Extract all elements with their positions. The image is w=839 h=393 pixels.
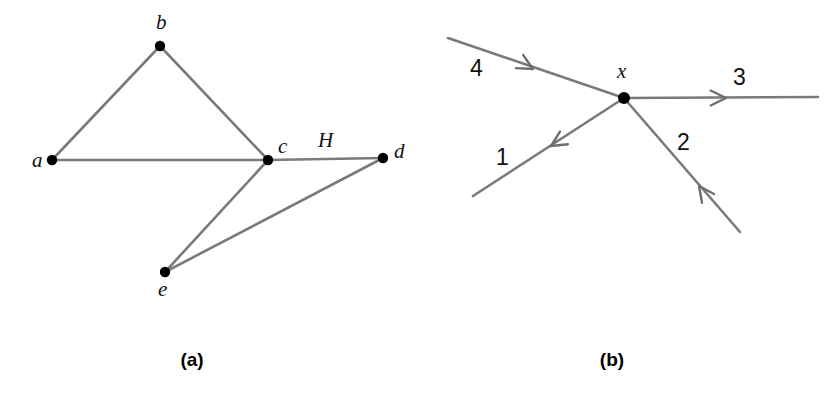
- vertex-dot-c: [263, 155, 273, 165]
- vertex-label-d: d: [394, 139, 405, 163]
- edge-label-H: H: [317, 128, 335, 152]
- edge-number-1: 1: [496, 144, 509, 170]
- panel-caption-a: (a): [180, 349, 203, 370]
- edge-c-e: [165, 160, 268, 272]
- vertex-label-a: a: [32, 148, 43, 172]
- edge-c-d: [268, 158, 383, 160]
- vertex-dot-d: [378, 153, 388, 163]
- panel-caption-b: (b): [600, 349, 624, 370]
- vertex-label-x: x: [616, 59, 627, 83]
- panel-b-edge-labels: 1 2 3 4: [470, 55, 746, 170]
- figure-svg: H a b c d e (a): [0, 0, 839, 393]
- figure-container: H a b c d e (a): [0, 0, 839, 393]
- vertex-dot-a: [47, 155, 57, 165]
- edge-e-d: [165, 158, 383, 272]
- panel-b-edges: [448, 38, 818, 232]
- panel-a-vertex-labels: a b c d e: [32, 10, 405, 301]
- edge-number-4: 4: [470, 55, 483, 81]
- vertex-label-e: e: [158, 277, 167, 301]
- edge-2-line: [624, 98, 740, 232]
- panel-b-group: 1 2 3 4 x (b): [448, 38, 818, 370]
- edge-a-b: [52, 46, 160, 160]
- vertex-label-c: c: [278, 134, 288, 158]
- panel-a-edges: [52, 46, 383, 272]
- vertex-label-b: b: [156, 10, 167, 34]
- vertex-dot-b: [155, 41, 165, 51]
- panel-a-group: H a b c d e (a): [32, 10, 405, 370]
- vertex-dot-x: [618, 92, 630, 104]
- vertex-dot-e: [160, 267, 170, 277]
- edge-b-c: [160, 46, 268, 160]
- edge-3-line: [624, 97, 818, 98]
- edge-number-2: 2: [677, 129, 690, 155]
- edge-number-3: 3: [733, 64, 746, 90]
- panel-a-edge-labels: H: [317, 128, 335, 152]
